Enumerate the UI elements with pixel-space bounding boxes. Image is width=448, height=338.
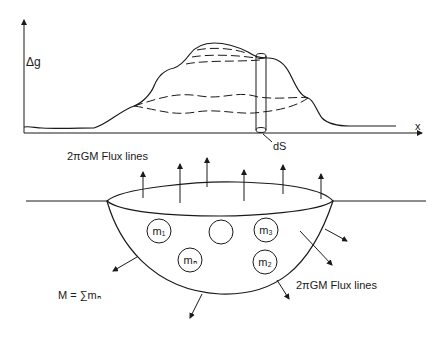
- flux-label-top: 2πGM Flux lines: [67, 150, 148, 162]
- mass-sum-label: M = ∑mₙ: [58, 289, 101, 302]
- svg-text:m₂: m₂: [258, 256, 271, 268]
- mass-m3: m₃: [254, 218, 278, 242]
- anomaly-profile-panel: Δg x dS: [24, 20, 422, 152]
- dashed-contour-1: [197, 48, 246, 53]
- mass-m1: m₁: [147, 219, 171, 243]
- x-axis-label: x: [415, 120, 421, 132]
- bowl-rim: [107, 182, 333, 216]
- svg-text:m₃: m₃: [259, 224, 273, 236]
- mass-m2: m₂: [253, 250, 277, 274]
- dashed-contour-3: [186, 60, 260, 64]
- gauss-theorem-gravity-diagram: Δg x dS 2πGM Flux lines: [0, 0, 448, 338]
- ds-leader-line: [263, 134, 272, 142]
- svg-text:m₁: m₁: [153, 225, 166, 237]
- surface-element-label: dS: [273, 140, 286, 152]
- surface-element-cylinder: [256, 54, 266, 133]
- outward-flux-arrows: [113, 229, 347, 318]
- svg-text:mₙ: mₙ: [183, 254, 196, 266]
- dashed-contour-4: [134, 94, 308, 106]
- dashed-contour-2: [192, 55, 256, 58]
- dashed-contour-5: [134, 98, 308, 113]
- buried-mass-panel: 2πGM Flux lines m₁: [26, 150, 426, 318]
- mass-mn: mₙ: [178, 248, 202, 272]
- flux-label-bottom: 2πGM Flux lines: [296, 279, 377, 291]
- upward-flux-arrows: [143, 158, 321, 203]
- y-axis-label: Δg: [26, 55, 41, 69]
- mass-blank: [209, 220, 233, 244]
